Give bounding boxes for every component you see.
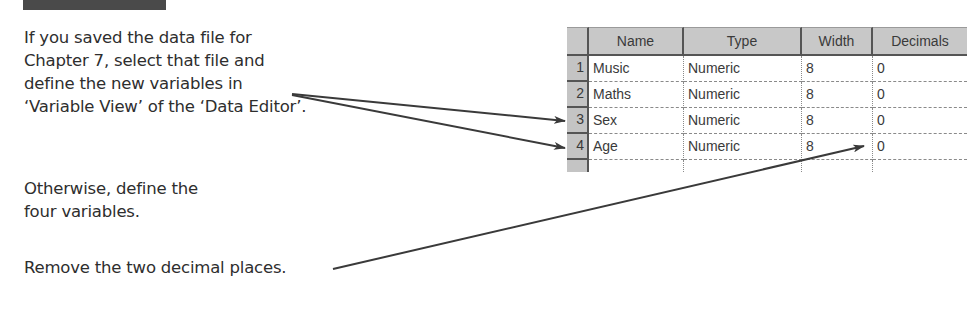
instruction-block-define-variables: Otherwise, define the four variables. xyxy=(24,177,198,223)
cell-type[interactable]: Numeric xyxy=(684,56,802,82)
cell-name[interactable]: Age xyxy=(589,134,684,160)
column-header-name[interactable]: Name xyxy=(589,27,684,56)
row-number[interactable]: 2 xyxy=(567,82,589,108)
instruction-line: four variables. xyxy=(24,200,198,223)
cell-name[interactable]: Music xyxy=(589,56,684,82)
row-number[interactable]: 4 xyxy=(567,134,589,160)
instruction-line: Otherwise, define the xyxy=(24,177,198,200)
cell-width[interactable]: 8 xyxy=(802,108,873,134)
instruction-line: define the new variables in xyxy=(24,72,306,95)
row-number[interactable]: 3 xyxy=(567,108,589,134)
cell-stub xyxy=(684,160,802,172)
instruction-block-remove-decimals: Remove the two decimal places. xyxy=(24,256,286,279)
cell-name[interactable]: Maths xyxy=(589,82,684,108)
cell-width[interactable]: 8 xyxy=(802,82,873,108)
grid-corner xyxy=(567,27,589,56)
instruction-line: Remove the two decimal places. xyxy=(24,256,286,279)
cell-type[interactable]: Numeric xyxy=(684,134,802,160)
arrow-to-row-4 xyxy=(292,95,565,148)
cell-decimals[interactable]: 0 xyxy=(873,134,967,160)
column-header-decimals[interactable]: Decimals xyxy=(873,27,967,56)
cell-stub xyxy=(589,160,684,172)
row-number[interactable]: 1 xyxy=(567,56,589,82)
instruction-line: If you saved the data file for xyxy=(24,26,306,49)
cell-type[interactable]: Numeric xyxy=(684,82,802,108)
arrow-to-row-3 xyxy=(292,94,565,121)
cell-type[interactable]: Numeric xyxy=(684,108,802,134)
instruction-line: Chapter 7, select that file and xyxy=(24,49,306,72)
section-header-bar xyxy=(23,0,166,10)
cell-name[interactable]: Sex xyxy=(589,108,684,134)
cell-decimals[interactable]: 0 xyxy=(873,56,967,82)
instruction-line: ‘Variable View’ of the ‘Data Editor’. xyxy=(24,95,306,118)
column-header-type[interactable]: Type xyxy=(684,27,802,56)
variable-view-grid: Name Type Width Decimals 1 Music Numeric… xyxy=(567,27,967,172)
cell-width[interactable]: 8 xyxy=(802,56,873,82)
column-header-width[interactable]: Width xyxy=(802,27,873,56)
cell-decimals[interactable]: 0 xyxy=(873,108,967,134)
instruction-block-open-file: If you saved the data file for Chapter 7… xyxy=(24,26,306,118)
cell-width[interactable]: 8 xyxy=(802,134,873,160)
cell-decimals[interactable]: 0 xyxy=(873,82,967,108)
cell-stub xyxy=(802,160,873,172)
row-number-stub[interactable] xyxy=(567,160,589,172)
